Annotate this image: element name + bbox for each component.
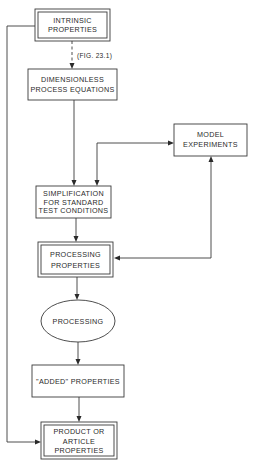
arrowhead-left-icon xyxy=(114,256,120,261)
edge-processing-properties-model xyxy=(117,159,211,258)
node-product-properties: PRODUCT OR ARTICLE PROPERTIES xyxy=(41,422,117,459)
node-dimensionless-process-equations: DIMENSIONLESS PROCESS EQUATIONS xyxy=(28,69,117,100)
node-simplification: SIMPLIFICATION FOR STANDARD TEST CONDITI… xyxy=(36,186,111,218)
node-label-line: PROPERTIES xyxy=(51,261,100,270)
node-label-line: PROCESSING xyxy=(50,250,101,259)
node-label-line: EXPERIMENTS xyxy=(183,140,238,149)
node-processing-properties: PROCESSING PROPERTIES xyxy=(38,242,113,277)
node-processing: PROCESSING xyxy=(41,300,115,342)
arrowhead-down-icon xyxy=(70,63,75,69)
node-label-line: INTRINSIC xyxy=(53,16,92,25)
node-intrinsic-properties: INTRINSIC PROPERTIES xyxy=(35,9,110,41)
arrowhead-down-icon xyxy=(95,180,100,186)
node-model-experiments: MODEL EXPERIMENTS xyxy=(174,124,247,156)
arrowhead-down-icon xyxy=(76,359,81,365)
node-label-line: PROPERTIES xyxy=(48,25,97,34)
arrowhead-down-icon xyxy=(74,236,79,242)
node-label-line: MODEL xyxy=(197,130,224,139)
arrowhead-up-icon xyxy=(209,156,214,162)
node-label-line: DIMENSIONLESS xyxy=(41,75,104,84)
node-label-line: "ADDED" PROPERTIES xyxy=(36,377,120,386)
edge-model-simplification xyxy=(97,143,171,183)
arrowhead-down-icon xyxy=(72,180,77,186)
edge-label-fig: (FIG. 23.1) xyxy=(77,52,112,60)
node-label-line: PROPERTIES xyxy=(54,446,103,455)
arrowhead-down-icon xyxy=(75,294,80,300)
arrowhead-down-icon xyxy=(77,416,82,422)
node-added-properties: "ADDED" PROPERTIES xyxy=(32,365,124,397)
arrowhead-right-icon xyxy=(168,141,174,146)
node-label-line: PROCESSING xyxy=(53,317,104,326)
node-label-line: ARTICLE xyxy=(63,437,95,446)
node-label-line: PRODUCT OR xyxy=(53,427,104,436)
flowchart-diagram: (FIG. 23.1) INTRINSIC PROPERTIES xyxy=(0,0,258,462)
node-label-line: PROCESS EQUATIONS xyxy=(30,85,114,94)
arrowhead-right-icon xyxy=(35,440,41,445)
node-label-line: TEST CONDITIONS xyxy=(39,206,109,215)
